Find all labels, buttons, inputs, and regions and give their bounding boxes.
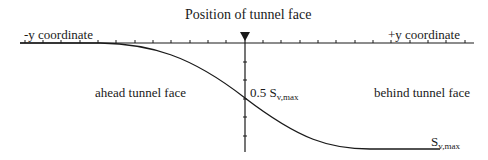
behind-region-label: behind tunnel face <box>374 86 470 99</box>
tunnel-face-title: Position of tunnel face <box>185 8 311 22</box>
half-settlement-subscript: v,max <box>277 92 299 102</box>
half-settlement-text: 0.5 S <box>250 85 277 100</box>
max-settlement-label: Sv,max <box>431 135 460 151</box>
positive-y-label: +y coordinate <box>388 28 460 41</box>
half-settlement-label: 0.5 Sv,max <box>250 86 298 102</box>
max-settlement-subscript: v,max <box>438 141 460 151</box>
settlement-diagram <box>0 0 488 160</box>
arrow-down-icon <box>240 32 250 41</box>
negative-y-label: -y coordinate <box>24 28 93 41</box>
ahead-region-label: ahead tunnel face <box>95 86 186 99</box>
